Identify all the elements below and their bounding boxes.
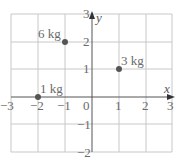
x-tick-label: 3 [167,98,174,113]
x-tick-label: 2 [142,98,149,113]
point-label: 1 kg [40,81,63,96]
point-label: 3 kg [121,53,144,68]
coordinate-grid-diagram: x y −3 −2 −1 0 1 2 3 3 2 1 −1 −2 6 kg 3 … [0,0,183,164]
y-axis-arrow-icon [89,11,95,19]
y-tick-label: −1 [77,117,91,132]
x-tick-label: 0 [83,98,90,113]
y-tick-label: −2 [77,145,91,160]
point-label: 6 kg [38,26,61,41]
x-tick-label: −3 [0,98,14,113]
x-tick-label: −2 [30,98,44,113]
point-6kg [62,39,68,45]
x-tick-label: −1 [57,98,71,113]
y-tick-label: 1 [83,61,90,76]
x-tick-label: 1 [115,98,122,113]
y-tick-label: 3 [83,6,90,21]
y-axis-label: y [94,10,102,25]
x-axis-label: x [163,81,170,96]
y-tick-label: 2 [83,34,90,49]
